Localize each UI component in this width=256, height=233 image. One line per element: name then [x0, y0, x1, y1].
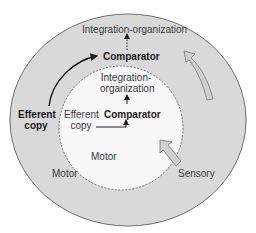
inner-integration-label: Integration- organization [100, 72, 152, 94]
inner-comparator-label: Comparator [104, 109, 161, 120]
inner-efferent-copy-label: Efferent copy [64, 109, 98, 131]
outer-efferent-copy-label: Efferent copy [18, 109, 54, 131]
sensory-label: Sensory [178, 168, 215, 179]
outer-motor-label: Motor [52, 168, 78, 179]
inner-motor-label: Motor [91, 151, 117, 162]
outer-integration-label: Integration-organization [82, 24, 187, 35]
outer-comparator-label: Comparator [103, 51, 160, 62]
